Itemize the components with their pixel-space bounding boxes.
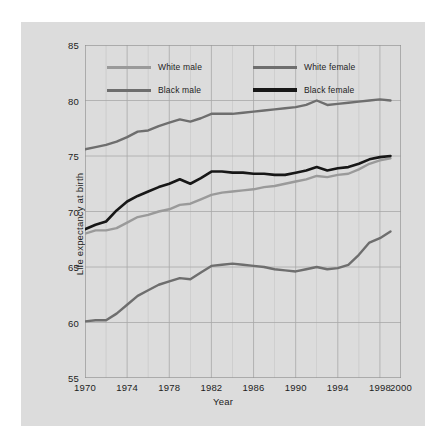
x-tick-label: 1974 bbox=[116, 382, 138, 393]
x-tick-label: 1982 bbox=[200, 382, 222, 393]
legend-label: Black male bbox=[158, 85, 201, 95]
y-tick-label: 85 bbox=[68, 40, 79, 51]
legend-label: Black female bbox=[304, 85, 354, 95]
y-tick-label: 80 bbox=[68, 95, 79, 106]
legend-entry-black-male[interactable]: Black male bbox=[107, 85, 201, 95]
x-tick-label: 1978 bbox=[158, 382, 180, 393]
x-tick-label: 1994 bbox=[327, 382, 349, 393]
y-axis-tick-labels: 85807570656055 bbox=[21, 45, 79, 378]
x-tick-label: 1970 bbox=[74, 382, 96, 393]
legend: White maleWhite femaleBlack maleBlack fe… bbox=[85, 45, 401, 378]
legend-entry-white-female[interactable]: White female bbox=[253, 62, 355, 72]
y-tick-label: 75 bbox=[68, 151, 79, 162]
x-tick-label: 1986 bbox=[243, 382, 265, 393]
legend-swatch-icon bbox=[253, 88, 297, 91]
figure-panel: Life expectancy at birth 85807570656055 … bbox=[21, 22, 425, 426]
legend-swatch-icon bbox=[107, 89, 151, 92]
x-tick-label: 1990 bbox=[285, 382, 307, 393]
legend-swatch-icon bbox=[107, 66, 151, 69]
legend-label: White male bbox=[158, 62, 202, 72]
x-tick-label: 2000 bbox=[390, 382, 412, 393]
plot-area: White maleWhite femaleBlack maleBlack fe… bbox=[85, 45, 401, 378]
x-axis-tick-labels: 197019741978198219861990199419982000 bbox=[85, 382, 401, 396]
legend-label: White female bbox=[304, 62, 355, 72]
y-tick-label: 65 bbox=[68, 262, 79, 273]
y-tick-label: 60 bbox=[68, 317, 79, 328]
x-tick-label: 1998 bbox=[369, 382, 391, 393]
y-tick-label: 70 bbox=[68, 206, 79, 217]
x-axis-title: Year bbox=[21, 396, 425, 407]
legend-entry-white-male[interactable]: White male bbox=[107, 62, 202, 72]
legend-swatch-icon bbox=[253, 66, 297, 69]
legend-entry-black-female[interactable]: Black female bbox=[253, 85, 354, 95]
